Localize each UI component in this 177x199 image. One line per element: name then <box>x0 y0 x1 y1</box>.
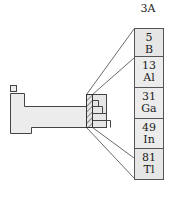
element-symbol: In <box>135 134 163 146</box>
element-symbol: Ga <box>135 103 163 115</box>
element-cell-gallium: 31 Ga <box>134 88 164 119</box>
connector-line <box>93 128 135 159</box>
element-symbol: Al <box>135 72 163 84</box>
element-cell-indium: 49 In <box>134 119 164 149</box>
element-symbol: B <box>135 44 163 56</box>
connector-line <box>87 29 135 95</box>
element-symbol: Tl <box>135 164 163 176</box>
group-3a-column-hatched <box>87 95 93 128</box>
group-label: 3A <box>133 2 163 15</box>
element-cell-boron: 5 B <box>134 28 164 57</box>
connector-line <box>93 58 135 95</box>
element-cell-thallium: 81 Tl <box>134 149 164 180</box>
element-cell-aluminum: 13 Al <box>134 57 164 88</box>
hydrogen-box <box>11 86 17 92</box>
